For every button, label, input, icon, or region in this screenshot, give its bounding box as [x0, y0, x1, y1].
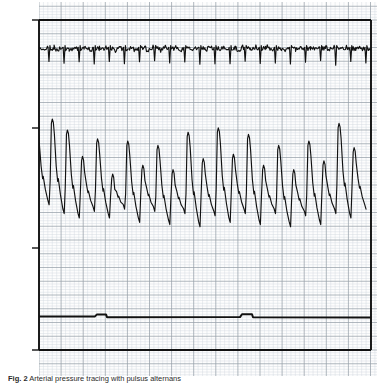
- figure-caption-number: Fig. 2: [8, 374, 28, 383]
- figure-caption-text: Arterial pressure tracing with pulsus al…: [29, 374, 181, 383]
- figure-caption: Fig. 2 Arterial pressure tracing with pu…: [8, 374, 376, 384]
- physiologic-recording-plot: [0, 0, 381, 384]
